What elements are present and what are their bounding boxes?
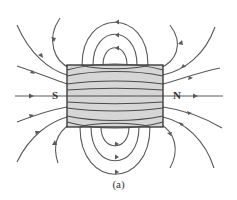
top-loops	[82, 22, 148, 65]
right-field-lines	[160, 25, 223, 168]
arrow-icon	[193, 94, 198, 99]
bottom-loops	[80, 127, 150, 174]
field-lines-canvas	[0, 0, 237, 200]
figure-caption: (a)	[0, 178, 237, 190]
arrow-icon	[115, 20, 119, 25]
arrow-icon	[187, 111, 192, 115]
north-pole-label: N	[173, 89, 181, 101]
arrow-icon	[115, 33, 119, 38]
arrow-icon	[178, 40, 183, 45]
arrow-icon	[115, 46, 119, 51]
arrow-icon	[115, 155, 119, 160]
south-pole-label: S	[52, 89, 58, 101]
arrow-icon	[29, 94, 34, 99]
bar-magnet-field-diagram: S N (a)	[0, 0, 237, 200]
left-field-lines	[15, 18, 70, 163]
arrow-icon	[51, 37, 56, 42]
